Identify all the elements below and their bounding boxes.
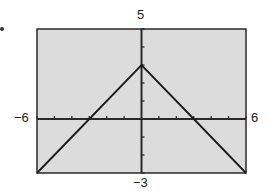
graph-window <box>0 0 271 191</box>
